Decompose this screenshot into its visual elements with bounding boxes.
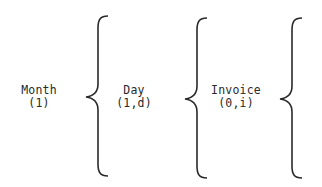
left-brace-icon	[82, 14, 112, 178]
node-day-repetition: (1,d)	[111, 97, 157, 110]
node-day: Day (1,d)	[111, 84, 157, 110]
node-month-repetition: (1)	[14, 97, 64, 110]
node-invoice-repetition: (0,i)	[205, 97, 267, 110]
node-invoice: Invoice (0,i)	[205, 84, 267, 110]
left-brace-icon	[276, 16, 306, 180]
node-month: Month (1)	[14, 84, 64, 110]
